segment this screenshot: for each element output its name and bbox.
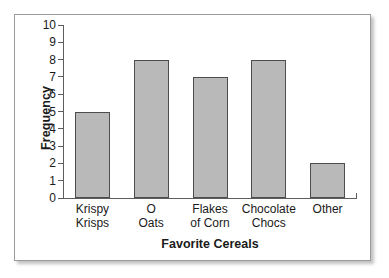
y-tick-5: [58, 111, 63, 112]
x-axis-title: Favorite Cereals: [63, 237, 357, 251]
category-label: Krispy Krisps: [63, 202, 122, 230]
y-tick-3: [58, 146, 63, 147]
bar[interactable]: [193, 77, 228, 198]
x-axis-end-tick: [356, 193, 357, 199]
y-tick-label-2: 2: [32, 157, 56, 169]
y-tick-10: [58, 25, 63, 26]
y-tick-label-6: 6: [32, 88, 56, 100]
y-tick-label-8: 8: [32, 54, 56, 66]
y-tick-9: [58, 42, 63, 43]
y-tick-1: [58, 180, 63, 181]
y-tick-label-4: 4: [32, 123, 56, 135]
y-tick-label-0: 0: [32, 192, 56, 204]
y-tick-4: [58, 128, 63, 129]
y-tick-label-7: 7: [32, 71, 56, 83]
bar[interactable]: [251, 60, 286, 198]
category-label: Chocolate Chocs: [239, 202, 298, 230]
y-tick-label-9: 9: [32, 36, 56, 48]
y-tick-label-3: 3: [32, 140, 56, 152]
figure: Frequency Favorite Cereals 012345678910 …: [0, 0, 389, 278]
x-axis-line: [63, 198, 357, 199]
category-label: Flakes of Corn: [181, 202, 240, 230]
y-axis-line: [63, 25, 64, 199]
y-tick-2: [58, 163, 63, 164]
y-tick-6: [58, 94, 63, 95]
bar[interactable]: [75, 112, 110, 199]
y-tick-label-1: 1: [32, 175, 56, 187]
bar[interactable]: [134, 60, 169, 198]
y-tick-8: [58, 59, 63, 60]
category-label: Other: [298, 202, 357, 216]
y-tick-label-10: 10: [32, 19, 56, 31]
y-tick-label-5: 5: [32, 106, 56, 118]
plot-area: Frequency Favorite Cereals 012345678910 …: [15, 15, 372, 262]
chart-frame: Frequency Favorite Cereals 012345678910 …: [14, 14, 371, 261]
bar[interactable]: [310, 163, 345, 198]
category-label: O Oats: [122, 202, 181, 230]
y-tick-0: [58, 198, 63, 199]
y-tick-7: [58, 76, 63, 77]
